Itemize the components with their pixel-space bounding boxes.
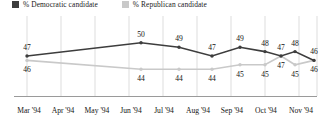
- value-label-democratic: 48: [261, 40, 269, 48]
- data-point: [139, 41, 142, 44]
- data-point: [293, 50, 296, 53]
- chart-legend: % Democratic candidate % Republican cand…: [12, 1, 207, 8]
- data-point: [279, 54, 282, 57]
- data-point: [263, 50, 266, 53]
- legend-item-democratic: % Democratic candidate: [12, 1, 98, 8]
- series-line-republican: [27, 56, 314, 69]
- legend-label-democratic: % Democratic candidate: [23, 1, 98, 8]
- value-label-republican: 47: [277, 62, 285, 70]
- x-axis-line: [14, 96, 317, 97]
- x-tick-label: Apr '94: [52, 107, 75, 115]
- chart-container: % Democratic candidate % Republican cand…: [0, 0, 331, 124]
- value-label-democratic: 47: [208, 44, 216, 52]
- plot-svg: [0, 16, 331, 96]
- series-line-democratic: [27, 43, 314, 61]
- legend-label-republican: % Republican candidate: [133, 1, 207, 8]
- data-point: [177, 68, 180, 71]
- plot-area: 475049474948474846464444444545474546: [0, 16, 331, 96]
- x-tick-label: Sep '94: [221, 107, 243, 115]
- data-point: [210, 68, 213, 71]
- x-tick-label: Mar '94: [17, 107, 41, 115]
- data-point: [25, 54, 28, 57]
- x-tick-label: Jul '94: [154, 107, 174, 115]
- x-tick-label: Nov '94: [289, 107, 313, 115]
- data-point: [139, 68, 142, 71]
- value-label-democratic: 49: [175, 35, 183, 43]
- x-tick-label: Jun '94: [120, 107, 141, 115]
- value-label-democratic: 50: [137, 31, 145, 39]
- data-point: [263, 63, 266, 66]
- data-point: [238, 46, 241, 49]
- data-point: [210, 54, 213, 57]
- x-axis: Mar '94Apr '94May '94Jun '94Jul '94Aug '…: [0, 96, 331, 124]
- legend-item-republican: % Republican candidate: [122, 1, 207, 8]
- value-label-republican: 45: [261, 71, 269, 79]
- data-point: [293, 63, 296, 66]
- data-point: [25, 59, 28, 62]
- data-point: [238, 63, 241, 66]
- legend-swatch-democratic: [12, 1, 19, 8]
- value-label-republican: 46: [23, 66, 31, 74]
- x-tick-label: Oct '94: [255, 107, 277, 115]
- value-label-republican: 46: [310, 66, 318, 74]
- value-label-democratic: 46: [310, 48, 318, 56]
- value-label-republican: 44: [137, 75, 145, 83]
- value-label-republican: 45: [236, 71, 244, 79]
- value-label-republican: 44: [175, 75, 183, 83]
- value-label-democratic: 49: [236, 35, 244, 43]
- value-label-democratic: 48: [291, 40, 299, 48]
- value-label-republican: 45: [291, 71, 299, 79]
- x-tick-label: May '94: [85, 107, 110, 115]
- legend-swatch-republican: [122, 1, 129, 8]
- value-label-democratic: 47: [23, 44, 31, 52]
- value-label-democratic: 47: [277, 44, 285, 52]
- value-label-republican: 44: [208, 75, 216, 83]
- data-point: [312, 59, 315, 62]
- x-tick-label: Aug '94: [186, 107, 210, 115]
- data-point: [177, 46, 180, 49]
